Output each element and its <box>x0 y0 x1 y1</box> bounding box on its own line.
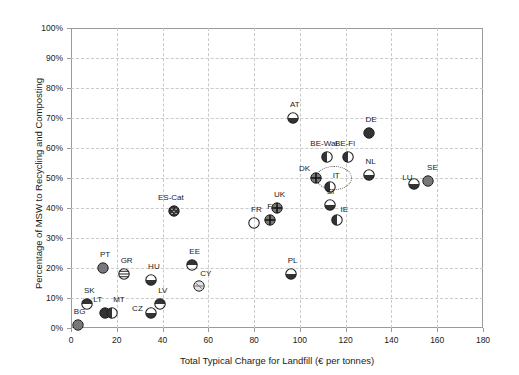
x-tick-label: 160 <box>417 335 457 345</box>
data-point-label-pl: PL <box>288 257 298 265</box>
data-point-be-fl[interactable] <box>342 151 354 163</box>
data-point-label-mt: MT <box>113 296 125 304</box>
x-tick-label: 60 <box>188 335 228 345</box>
data-point-label-gr: GR <box>121 257 133 265</box>
x-tick-label: 100 <box>280 335 320 345</box>
data-point-mt[interactable] <box>106 307 118 319</box>
data-point-label-uk: UK <box>274 191 285 199</box>
data-point-fr[interactable] <box>248 217 260 229</box>
data-point-label-sk: SK <box>84 287 95 295</box>
data-point-label-pt: PT <box>100 251 110 259</box>
data-point-label-se: SE <box>427 164 438 172</box>
data-point-lv[interactable] <box>154 298 166 310</box>
data-point-label-ie: IE <box>341 206 349 214</box>
data-point-label-lu: LU <box>402 174 412 182</box>
data-point-cy[interactable] <box>193 280 205 292</box>
data-point-label-cy: CY <box>200 270 211 278</box>
scatter-chart: 0%10%20%30%40%50%60%70%80%90%100% 020406… <box>0 0 519 375</box>
data-point-gr[interactable] <box>118 268 130 280</box>
x-tick-label: 120 <box>326 335 366 345</box>
data-point-nl[interactable] <box>363 169 375 181</box>
data-point-hu[interactable] <box>145 274 157 286</box>
x-tick-label: 0 <box>51 335 91 345</box>
data-point-dk[interactable] <box>310 172 322 184</box>
data-point-label-lv: LV <box>158 287 167 295</box>
data-point-label-dk: DK <box>299 165 310 173</box>
data-point-bg[interactable] <box>72 319 84 331</box>
data-point-ee[interactable] <box>186 259 198 271</box>
x-axis-title: Total Typical Charge for Landfill (€ per… <box>71 355 483 366</box>
data-point-ie[interactable] <box>331 214 343 226</box>
data-point-label-lt: LT <box>93 296 102 304</box>
data-point-at[interactable] <box>287 112 299 124</box>
data-point-label-de: DE <box>366 116 377 124</box>
data-point-fi[interactable] <box>264 214 276 226</box>
data-point-label-fr: FR <box>251 206 262 214</box>
x-tick-label: 20 <box>97 335 137 345</box>
data-point-label-es-cat: ES-Cat <box>158 194 184 202</box>
data-point-be-wal[interactable] <box>321 151 333 163</box>
data-point-pl[interactable] <box>285 268 297 280</box>
data-point-se[interactable] <box>422 175 434 187</box>
data-point-sk[interactable] <box>81 298 93 310</box>
data-point-label-be-wal: BE-Wal <box>310 140 337 148</box>
data-point-pt[interactable] <box>97 262 109 274</box>
y-axis-title: Percentage of MSW to Recycling and Compo… <box>33 24 44 344</box>
data-point-label-cz: CZ <box>132 305 143 313</box>
data-point-label-ee: EE <box>189 248 200 256</box>
data-point-label-si: SI <box>327 188 335 196</box>
data-point-label-hu: HU <box>148 263 160 271</box>
x-tick-label: 140 <box>371 335 411 345</box>
data-point-si[interactable] <box>324 199 336 211</box>
x-tick-label: 180 <box>463 335 503 345</box>
data-point-label-be-fl: BE-Fl <box>335 140 355 148</box>
data-point-label-nl: NL <box>366 158 376 166</box>
data-point-es-cat[interactable] <box>168 205 180 217</box>
data-point-uk[interactable] <box>271 202 283 214</box>
x-tick-label: 40 <box>143 335 183 345</box>
y-axis-title-wrap: Percentage of MSW to Recycling and Compo… <box>8 8 26 338</box>
data-point-label-it: IT <box>333 172 340 180</box>
data-point-de[interactable] <box>363 127 375 139</box>
x-tick-label: 80 <box>234 335 274 345</box>
data-point-label-at: AT <box>290 101 300 109</box>
